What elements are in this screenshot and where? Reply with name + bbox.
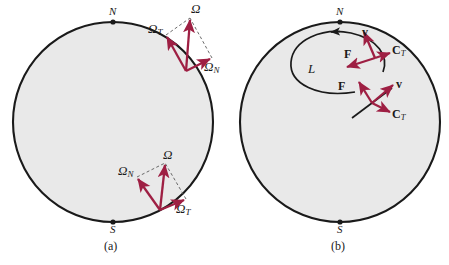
omega-normal-label-a-north: ΩN <box>204 60 219 75</box>
coriolis-label-b-upper: CT <box>392 44 405 57</box>
panel-caption-b: (b) <box>331 240 345 252</box>
omega-normal-label-a-south: ΩN <box>118 164 133 179</box>
earth-circle-b <box>240 22 440 222</box>
pole-label-north-a: N <box>109 6 116 17</box>
velocity-label-b-upper: v <box>362 26 368 38</box>
figure-container: N S (a) Ω ΩT ΩN Ω ΩN ΩT N S (b) L v CT F… <box>0 0 449 265</box>
coriolis-label-b-lower: CT <box>392 108 405 121</box>
north-pole-marker-a <box>110 19 115 24</box>
omega-label-a-south: Ω <box>163 148 172 161</box>
earth-circle-a <box>13 22 213 222</box>
pole-label-south-a: S <box>110 224 116 235</box>
pole-label-south-b: S <box>337 224 343 235</box>
omega-tangential-label-a-south: ΩT <box>176 202 190 217</box>
panel-caption-a: (a) <box>104 240 117 252</box>
force-label-b-lower: F <box>338 80 345 92</box>
omega-tangential-label-a-north: ΩT <box>148 22 162 37</box>
north-pole-marker-b <box>337 19 342 24</box>
velocity-label-b-lower: v <box>396 78 402 90</box>
diagram-svg <box>0 0 449 265</box>
trajectory-label-b: L <box>308 62 315 75</box>
omega-label-a-north: Ω <box>191 2 200 15</box>
force-label-b-upper: F <box>344 48 351 60</box>
pole-label-north-b: N <box>336 6 343 17</box>
